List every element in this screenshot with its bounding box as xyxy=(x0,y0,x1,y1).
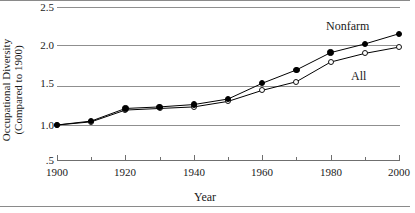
series-label-all: All xyxy=(351,70,366,82)
data-point-nonfarm-2000 xyxy=(396,31,402,37)
data-point-nonfarm-1970 xyxy=(293,67,299,73)
series-label-nonfarm: Nonfarm xyxy=(326,20,369,32)
series-line-nonfarm xyxy=(57,34,399,125)
data-point-all-1980 xyxy=(328,59,334,65)
data-point-nonfarm-1920 xyxy=(122,105,128,111)
data-point-nonfarm-1940 xyxy=(191,101,197,107)
x-axis-label: Year xyxy=(0,191,410,203)
data-point-nonfarm-1990 xyxy=(362,41,368,47)
series-line-all xyxy=(57,47,399,125)
data-point-nonfarm-1930 xyxy=(156,104,162,110)
data-point-nonfarm-1980 xyxy=(327,49,333,55)
